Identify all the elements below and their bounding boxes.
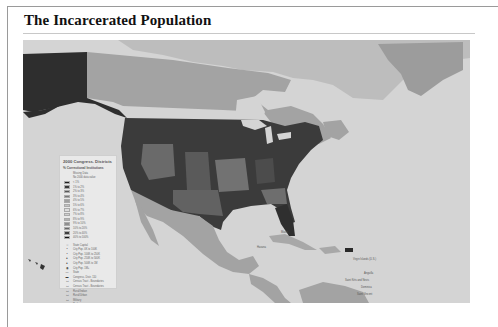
map-label-havana: Havana	[257, 246, 266, 249]
legend-symbol-icon: ▭	[64, 280, 70, 283]
legend-swatch	[64, 236, 70, 239]
legend-swatch	[64, 181, 70, 184]
legend-swatch	[64, 208, 70, 211]
legend-symbol-label: City Pop. 500K to 1M	[73, 262, 98, 265]
legend-symbol-icon: ☆	[64, 244, 70, 247]
map-label-caribbean-4: Dominica	[361, 286, 372, 289]
legend-title: 2000 Congress. Districts	[63, 159, 116, 164]
legend-symbol-label: City Pop. 0K to 100K	[73, 248, 97, 251]
legend-symbol-icon: ●	[64, 257, 70, 260]
legend-swatch	[64, 222, 70, 225]
legend-class-label: 4% to 5%	[73, 199, 84, 202]
page-title: The Incarcerated Population	[24, 12, 211, 29]
legend-swatch	[64, 190, 70, 193]
legend-symbol-icon: ▭	[64, 294, 70, 297]
legend-swatch	[64, 185, 70, 188]
legend-class-label: 7% to 8%	[73, 213, 84, 216]
legend-subtitle: % Correctional Institutions	[63, 166, 116, 170]
legend-symbol-label: State Capital	[73, 244, 88, 247]
legend-swatch	[64, 204, 70, 207]
legend-class-label: 8% to 9%	[73, 218, 84, 221]
map-view[interactable]: Miami Havana Virgin Islands (U.S.) Angui…	[23, 40, 470, 303]
legend-swatch	[64, 199, 70, 202]
map-label-caribbean-1: Virgin Islands (U.S.)	[353, 258, 376, 261]
legend-symbol-label: Rural/Urban	[73, 294, 87, 297]
legend-symbol-icon: ◉	[64, 267, 70, 270]
map-legend: 2000 Congress. Districts % Correctional …	[59, 155, 117, 289]
legend-symbol-icon: •	[64, 248, 70, 251]
legend-symbol-label: City Pop. 250K to 500K	[73, 257, 100, 260]
legend-symbol-icon: ▭	[64, 299, 70, 302]
legend-symbol-icon: ▭	[64, 290, 70, 293]
legend-swatch	[64, 231, 70, 234]
legend-class-label: 10% to 20%	[73, 227, 87, 230]
map-label-caribbean-2: Anguilla	[364, 272, 373, 275]
legend-classes: < 1%1% to 2%2% to 3%3% to 4%4% to 5%5% t…	[60, 180, 116, 240]
legend-symbol-label: Military	[73, 299, 81, 302]
legend-symbols: ☆State Capital•City Pop. 0K to 100K•City…	[60, 243, 116, 303]
legend-symbol-icon: ●	[64, 262, 70, 265]
legend-class-label: 5% to 6%	[73, 204, 84, 207]
legend-symbol-label: Congress. Distr. 110	[73, 276, 96, 279]
legend-class-label: 6% to 7%	[73, 209, 84, 212]
map-label-caribbean-3: Saint Kitts and Nevis	[345, 279, 369, 282]
legend-symbol-icon: ▬	[64, 276, 70, 279]
legend-symbol-label: Rural/Indian	[73, 290, 87, 293]
legend-symbol-label: State	[73, 271, 79, 274]
legend-swatch	[64, 195, 70, 198]
legend-symbol-label: Census Tract - Boundaries	[73, 285, 104, 288]
legend-symbol-label: Census Tract - Boundaries	[73, 280, 104, 283]
legend-class-label: 1% to 2%	[73, 186, 84, 189]
legend-symbol-label: City Pop. 1M+	[73, 267, 89, 270]
legend-symbol-icon: —	[64, 271, 70, 274]
legend-symbol-icon: ▭	[64, 285, 70, 288]
title-divider	[23, 33, 475, 34]
legend-class-label: 3% to 4%	[73, 195, 84, 198]
legend-symbol-label: City Pop. 100K to 250K	[73, 253, 100, 256]
legend-symbol-icon: •	[64, 253, 70, 256]
map-label-caribbean-5: Saint Vincent	[357, 293, 372, 296]
legend-class-label: 2% to 3%	[73, 190, 84, 193]
legend-swatch	[64, 213, 70, 216]
legend-class-label: < 1%	[73, 181, 79, 184]
legend-class-label: 9% to 10%	[73, 222, 86, 225]
map-label-miami: Miami	[281, 231, 288, 234]
legend-swatch	[64, 227, 70, 230]
legend-class-label: 20% to 40%	[73, 232, 87, 235]
legend-class-label: 40% to 100%	[73, 236, 88, 239]
legend-swatch	[64, 218, 70, 221]
